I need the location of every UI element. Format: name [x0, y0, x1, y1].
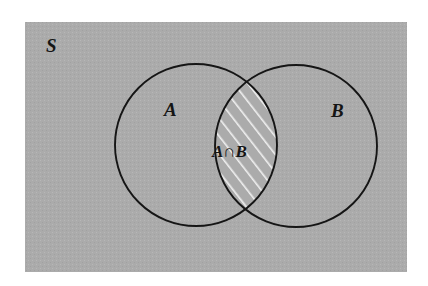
universal-set-label: S — [46, 35, 57, 56]
set-a-label: A — [163, 99, 177, 120]
venn-diagram-figure: S A B A∩B — [0, 0, 428, 286]
venn-diagram-canvas: S A B A∩B — [0, 0, 428, 286]
set-b-label: B — [330, 100, 344, 121]
intersection-label: A∩B — [211, 142, 247, 161]
